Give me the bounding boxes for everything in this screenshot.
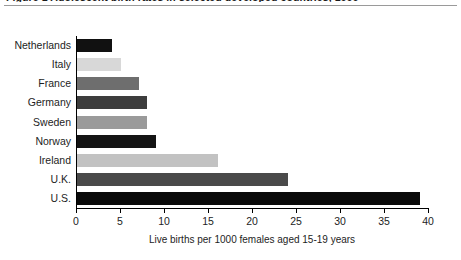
x-tick-label: 25 [276, 215, 316, 227]
bar-row: Italy [77, 58, 429, 71]
bar-row: U.S. [77, 192, 429, 205]
x-tick-label: 10 [144, 215, 184, 227]
bar [77, 192, 420, 205]
x-axis-title: Live births per 1000 females aged 15-19 … [76, 234, 428, 245]
figure-caption: Figure 1 Adolescent birth rates in selec… [0, 0, 461, 2]
x-tick-label: 5 [100, 215, 140, 227]
bar-row: Sweden [77, 116, 429, 129]
y-tick-label: U.K. [1, 173, 71, 186]
x-tick-mark [340, 208, 341, 213]
bar-row: Norway [77, 135, 429, 148]
x-tick-label: 20 [232, 215, 272, 227]
figure-container: Figure 1 Adolescent birth rates in selec… [0, 0, 461, 260]
bar [77, 135, 156, 148]
y-tick-label: Sweden [1, 116, 71, 129]
x-tick-mark [120, 208, 121, 213]
bar [77, 116, 147, 129]
bar [77, 173, 288, 186]
bar [77, 77, 139, 90]
y-tick-label: Netherlands [1, 39, 71, 52]
bar [77, 96, 147, 109]
y-tick-label: Ireland [1, 154, 71, 167]
plot-area: NetherlandsItalyFranceGermanySwedenNorwa… [76, 36, 428, 208]
x-tick-label: 35 [364, 215, 404, 227]
caption-divider [4, 5, 457, 6]
x-tick-mark [296, 208, 297, 213]
x-tick-mark [428, 208, 429, 213]
bar [77, 39, 112, 52]
bar-row: France [77, 77, 429, 90]
x-tick-label: 0 [56, 215, 96, 227]
y-tick-label: Italy [1, 58, 71, 71]
bar-row: Netherlands [77, 39, 429, 52]
y-tick-label: Germany [1, 96, 71, 109]
x-tick-mark [384, 208, 385, 213]
x-tick-label: 30 [320, 215, 360, 227]
x-tick-mark [76, 208, 77, 213]
bar [77, 154, 218, 167]
x-tick-mark [252, 208, 253, 213]
y-tick-label: France [1, 77, 71, 90]
bar [77, 58, 121, 71]
bar-row: U.K. [77, 173, 429, 186]
x-tick-mark [208, 208, 209, 213]
bar-row: Germany [77, 96, 429, 109]
x-tick-label: 40 [408, 215, 448, 227]
y-tick-label: U.S. [1, 192, 71, 205]
x-tick-mark [164, 208, 165, 213]
bar-row: Ireland [77, 154, 429, 167]
y-tick-label: Norway [1, 135, 71, 148]
x-tick-label: 15 [188, 215, 228, 227]
